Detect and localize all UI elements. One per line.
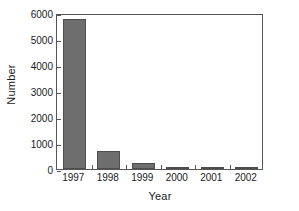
x-axis-tick-label: 1998 [91, 173, 126, 183]
y-axis-tick-mark [57, 145, 61, 146]
plot-area: 0100020003000400050006000 [56, 14, 263, 170]
y-axis-tick-mark [57, 41, 61, 42]
x-axis-tick-label: 2001 [194, 173, 229, 183]
y-axis-tick-mark [57, 171, 61, 172]
y-axis-tick-label: 3000 [31, 88, 53, 98]
y-axis-tick-label: 6000 [31, 10, 53, 20]
y-axis-tick-mark [57, 93, 61, 94]
y-axis-title: Number [6, 55, 17, 115]
x-axis-tick-label: 2000 [160, 173, 195, 183]
y-axis-tick-mark [57, 67, 61, 68]
bar[interactable] [166, 167, 189, 169]
y-axis-tick-label: 4000 [31, 62, 53, 72]
bar[interactable] [201, 167, 224, 169]
bar[interactable] [235, 167, 258, 169]
x-axis-tick-mark [92, 165, 93, 169]
y-axis-tick-label: 2000 [31, 114, 53, 124]
y-axis-tick-label: 1000 [31, 140, 53, 150]
x-axis-title: Year [56, 191, 264, 202]
bar[interactable] [132, 163, 155, 170]
x-axis-tick-label: 1997 [56, 173, 91, 183]
x-axis-tick-mark [126, 165, 127, 169]
x-axis-tick-mark [161, 165, 162, 169]
bar[interactable] [63, 19, 86, 169]
x-axis-tick-label: 1999 [125, 173, 160, 183]
bar-chart-figure: Number 0100020003000400050006000 1997199… [0, 0, 299, 211]
y-axis-tick-label: 0 [47, 166, 53, 176]
x-axis-tick-mark [195, 165, 196, 169]
y-axis-tick-label: 5000 [31, 36, 53, 46]
y-axis-tick-mark [57, 119, 61, 120]
x-axis-tick-mark [230, 165, 231, 169]
y-axis-tick-mark [57, 15, 61, 16]
bar[interactable] [97, 151, 120, 169]
x-axis-tick-label: 2002 [229, 173, 264, 183]
